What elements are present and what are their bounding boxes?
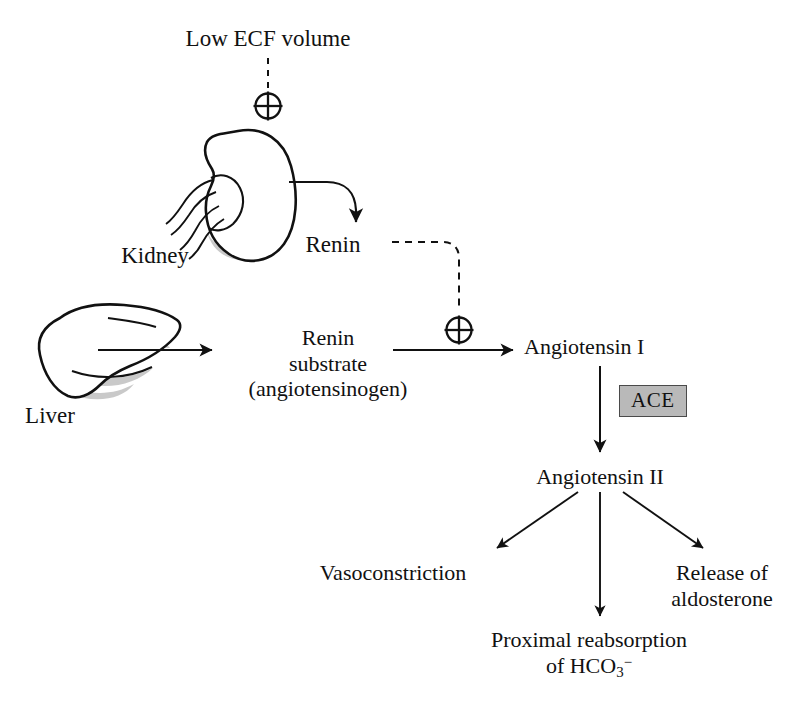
label-release-line2: aldosterone — [671, 586, 772, 612]
label-ace-enzyme: ACE — [619, 385, 687, 417]
label-release-of-aldosterone: Release of aldosterone — [671, 560, 772, 611]
label-proximal-line1: Proximal reabsorption — [491, 627, 687, 653]
label-liver: Liver — [25, 403, 75, 430]
plus-circle-icon-substrate — [445, 316, 474, 345]
label-renin: Renin — [306, 232, 361, 259]
connector-angiotensin-ii-to-aldosterone — [623, 492, 703, 548]
label-proximal-line2: of HCO3− — [491, 653, 687, 682]
label-bicarbonate-charge: − — [624, 653, 632, 669]
label-bicarbonate-prefix: of HCO — [546, 653, 616, 678]
liver-illustration — [39, 304, 180, 399]
connector-kidney-to-renin — [289, 182, 356, 222]
raas-pathway-diagram: Low ECF volume Kidney Renin Liver Renin … — [0, 0, 801, 724]
kidney-illustration — [166, 130, 296, 261]
label-release-line1: Release of — [671, 560, 772, 586]
label-angiotensin-ii: Angiotensin II — [536, 464, 664, 490]
label-low-ecf-volume: Low ECF volume — [186, 26, 351, 53]
label-renin-substrate-line1: Renin — [249, 325, 408, 351]
plus-circle-icon-ecf — [254, 92, 283, 121]
connector-angiotensin-ii-to-vasoconstriction — [497, 492, 578, 548]
label-renin-substrate-line3: (angiotensinogen) — [249, 376, 408, 402]
label-renin-substrate-line2: substrate — [249, 351, 408, 377]
label-proximal-reabsorption: Proximal reabsorption of HCO3− — [491, 627, 687, 681]
label-renin-substrate: Renin substrate (angiotensinogen) — [249, 325, 408, 402]
label-kidney: Kidney — [121, 243, 189, 270]
label-vasoconstriction: Vasoconstriction — [320, 560, 467, 586]
connector-renin-to-plus — [392, 242, 459, 307]
label-bicarbonate-subscript: 3 — [616, 664, 623, 680]
label-angiotensin-i: Angiotensin I — [524, 334, 644, 360]
